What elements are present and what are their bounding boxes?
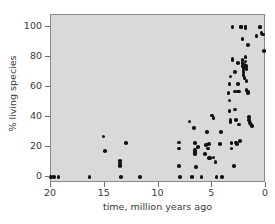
y-axis-label: % living species xyxy=(7,34,18,154)
data-point xyxy=(212,156,216,160)
y-axis-tick xyxy=(45,56,50,57)
y-axis-tick-label: 80 xyxy=(30,51,42,61)
data-point xyxy=(244,55,248,59)
x-axis-tick-label: 0 xyxy=(253,188,275,198)
x-axis-tick-label: 5 xyxy=(199,188,223,198)
data-point xyxy=(206,147,210,151)
data-point xyxy=(230,141,234,145)
data-point xyxy=(138,175,142,179)
data-point xyxy=(193,152,197,156)
data-point xyxy=(244,60,248,64)
data-point xyxy=(218,142,222,146)
data-point xyxy=(237,90,241,94)
data-point xyxy=(52,175,56,179)
data-point xyxy=(255,34,259,38)
data-point xyxy=(214,160,218,164)
data-point xyxy=(231,58,235,62)
data-point xyxy=(244,27,248,31)
data-point xyxy=(192,126,196,130)
x-axis-tick-label: 15 xyxy=(92,188,116,198)
data-point xyxy=(229,75,233,79)
data-point xyxy=(231,25,235,29)
y-axis-tick xyxy=(45,86,50,87)
data-point xyxy=(220,175,224,179)
scatter-plot-figure: 020406080100 20151050 time, million year… xyxy=(0,0,275,224)
data-point xyxy=(259,25,263,29)
data-point xyxy=(250,124,254,128)
data-point xyxy=(188,120,192,124)
data-point xyxy=(118,164,122,168)
plot-frame xyxy=(50,14,265,182)
data-point xyxy=(241,37,245,41)
data-point xyxy=(196,145,200,149)
data-point xyxy=(205,130,209,134)
x-axis-tick-label: 10 xyxy=(146,188,170,198)
data-point xyxy=(103,149,107,153)
y-axis-tick-label: 100 xyxy=(24,21,42,31)
data-point xyxy=(262,49,266,53)
y-axis-tick xyxy=(45,146,50,147)
data-point xyxy=(190,175,194,179)
y-axis-tick xyxy=(45,176,50,177)
data-point xyxy=(219,130,223,134)
data-point xyxy=(246,91,250,95)
data-point xyxy=(246,43,250,47)
data-point xyxy=(177,164,181,168)
data-point xyxy=(207,142,211,146)
data-point xyxy=(261,33,265,37)
data-point xyxy=(119,175,123,179)
data-point xyxy=(124,141,128,145)
data-point xyxy=(57,175,61,179)
data-point xyxy=(238,139,242,143)
x-axis-tick-label: 20 xyxy=(38,188,62,198)
x-axis-label: time, million years ago xyxy=(50,201,265,212)
data-point xyxy=(239,25,243,29)
data-point xyxy=(88,175,92,179)
data-point xyxy=(228,82,232,86)
data-point xyxy=(229,120,233,124)
data-point xyxy=(227,91,231,95)
data-point xyxy=(178,175,182,179)
data-point xyxy=(228,99,232,103)
data-point xyxy=(237,123,241,127)
data-point xyxy=(102,135,106,139)
data-point xyxy=(177,147,181,151)
data-point xyxy=(228,109,232,113)
y-axis-tick-label: 60 xyxy=(30,81,42,91)
data-point xyxy=(233,70,237,74)
y-axis-tick xyxy=(45,116,50,117)
y-axis-tick-label: 0 xyxy=(36,171,42,181)
data-point xyxy=(245,67,249,71)
data-point xyxy=(232,164,236,168)
data-point xyxy=(236,82,240,86)
data-point xyxy=(194,165,198,169)
y-axis-tick xyxy=(45,26,50,27)
data-point xyxy=(233,108,237,112)
data-point xyxy=(177,141,181,145)
plot-data-area xyxy=(51,15,264,181)
data-point xyxy=(212,116,216,120)
data-point xyxy=(203,152,207,156)
data-point xyxy=(245,79,249,83)
data-point xyxy=(200,175,204,179)
data-point xyxy=(215,175,219,179)
data-point xyxy=(236,61,240,65)
y-axis-tick-label: 20 xyxy=(30,141,42,151)
data-point xyxy=(230,147,234,151)
data-point xyxy=(234,118,238,122)
y-axis-tick-label: 40 xyxy=(30,111,42,121)
